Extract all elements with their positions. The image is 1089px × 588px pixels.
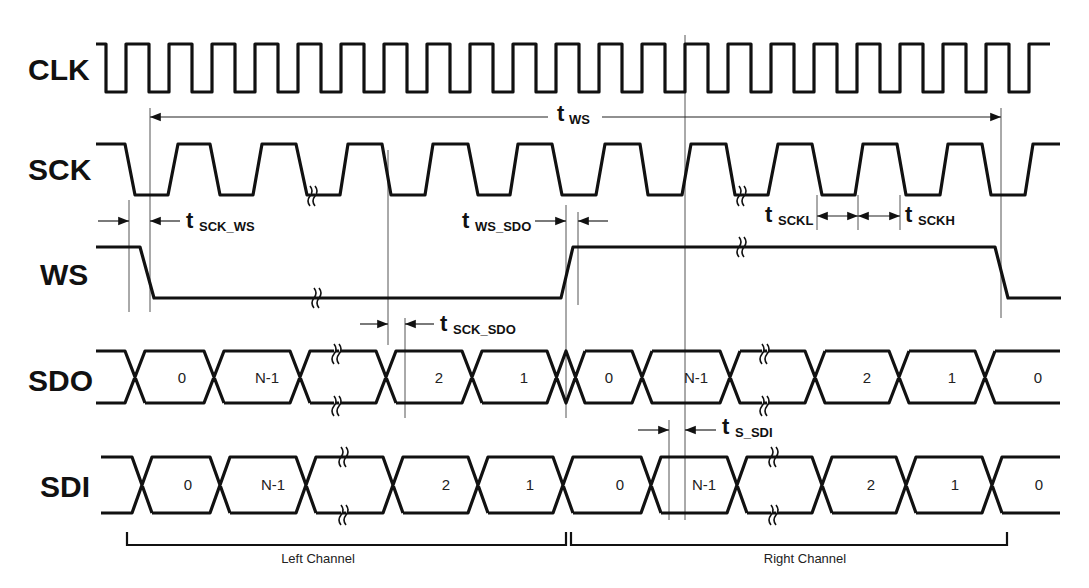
right-channel-bracket: Right Channel	[571, 532, 1007, 566]
svg-text:0: 0	[616, 476, 624, 493]
svg-text:SCK_SDO: SCK_SDO	[453, 322, 516, 337]
t-ws-label: t	[557, 101, 565, 126]
svg-text:t: t	[462, 208, 470, 233]
left-channel-label: Left Channel	[281, 551, 355, 566]
sdi-waveform	[101, 457, 1060, 513]
t-sck-sdo-dimension: t SCK_SDO	[360, 311, 516, 337]
svg-text:1: 1	[948, 369, 956, 386]
svg-text:2: 2	[863, 369, 871, 386]
t-s-sdi-dimension: t S_SDI	[638, 414, 773, 440]
svg-text:0: 0	[605, 369, 613, 386]
clk-label: CLK	[28, 53, 90, 86]
svg-text:2: 2	[867, 476, 875, 493]
svg-text:0: 0	[1035, 476, 1043, 493]
sdi-bit-labels: 0 N-1 2 1 0 N-1 2 1 0	[184, 476, 1043, 493]
svg-text:t: t	[186, 208, 194, 233]
svg-text:N-1: N-1	[692, 476, 716, 493]
ws-label: WS	[40, 258, 88, 291]
svg-text:N-1: N-1	[261, 476, 285, 493]
svg-text:1: 1	[951, 476, 959, 493]
svg-text:t: t	[722, 414, 730, 439]
sdi-label: SDI	[40, 470, 90, 503]
t-ws-dimension: t WS	[150, 101, 1001, 127]
timing-diagram: CLK SCK WS SDO SDI t WS t SCK_WS	[0, 0, 1089, 588]
sck-waveform	[96, 144, 1060, 195]
t-ws-sdo-dimension: t WS_SDO	[462, 208, 608, 234]
svg-text:SCKH: SCKH	[918, 213, 955, 228]
svg-text:2: 2	[435, 369, 443, 386]
svg-text:0: 0	[1034, 369, 1042, 386]
svg-text:2: 2	[442, 476, 450, 493]
left-channel-bracket: Left Channel	[127, 532, 566, 566]
svg-text:SCK_WS: SCK_WS	[199, 219, 255, 234]
t-sck-ws-dimension: t SCK_WS	[98, 208, 255, 234]
svg-text:1: 1	[520, 369, 528, 386]
svg-text:t: t	[905, 202, 913, 227]
svg-text:t: t	[440, 311, 448, 336]
clk-waveform	[96, 44, 1050, 92]
svg-text:1: 1	[526, 476, 534, 493]
svg-text:WS_SDO: WS_SDO	[475, 219, 531, 234]
svg-text:N-1: N-1	[684, 369, 708, 386]
svg-text:t: t	[765, 202, 773, 227]
right-channel-label: Right Channel	[764, 551, 846, 566]
svg-text:0: 0	[178, 369, 186, 386]
sdo-bit-labels: 0 N-1 2 1 0 N-1 2 1 0	[178, 369, 1042, 386]
sdo-label: SDO	[28, 364, 93, 397]
svg-text:N-1: N-1	[255, 369, 279, 386]
svg-text:S_SDI: S_SDI	[735, 425, 773, 440]
svg-text:SCKL: SCKL	[778, 213, 813, 228]
sdo-waveform	[96, 351, 1060, 403]
sck-label: SCK	[28, 153, 92, 186]
t-sckl-sckh-dimension: t SCKL t SCKH	[765, 202, 955, 228]
t-ws-sub: WS	[569, 112, 590, 127]
svg-text:0: 0	[184, 476, 192, 493]
